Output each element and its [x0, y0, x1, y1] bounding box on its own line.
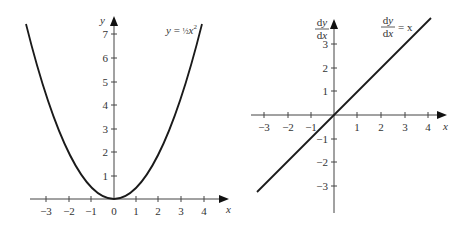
- left-x-tick-labels: −3 −2 −1 0 1 2 3 4: [40, 205, 207, 217]
- right-y-axis-arrow-icon: [330, 19, 338, 29]
- eq-numerator: dy: [383, 14, 394, 26]
- figure-canvas: −3 −2 −1 0 1 2 3 4 x 1 2 3 4 5 6 7: [0, 0, 470, 230]
- tick-label: −1: [316, 133, 328, 145]
- right-x-axis-label: x: [442, 120, 448, 132]
- left-x-axis-arrow-icon: [219, 195, 229, 203]
- left-chart: −3 −2 −1 0 1 2 3 4 x 1 2 3 4 5 6 7: [26, 14, 231, 217]
- tick-label: 2: [103, 146, 109, 158]
- right-chart: −3 −2 −1 1 2 3 4 x 1 2 3 −1 −2 −3: [251, 14, 448, 213]
- tick-label: 6: [103, 52, 109, 64]
- tick-label: 1: [354, 121, 360, 133]
- eq-rhs: = x: [398, 21, 413, 33]
- tick-label: −3: [316, 180, 328, 192]
- tick-label: 7: [103, 28, 109, 40]
- tick-label: 3: [103, 123, 109, 135]
- tick-label: 4: [425, 121, 431, 133]
- parabola-equation-label: y = ½x2: [165, 23, 198, 36]
- eq-denominator: dx: [383, 27, 394, 39]
- tick-label: 1: [323, 85, 329, 97]
- tick-label: −2: [282, 121, 294, 133]
- tick-label: −3: [258, 121, 270, 133]
- right-y-axis-label: dy dx: [315, 16, 329, 41]
- tick-label: −2: [63, 205, 75, 217]
- tick-label: 3: [178, 205, 184, 217]
- left-x-axis-label: x: [225, 203, 231, 215]
- right-x-axis-arrow-icon: [437, 111, 447, 119]
- tick-label: 0: [111, 205, 117, 217]
- tick-label: 4: [103, 99, 109, 111]
- tick-label: 3: [402, 121, 408, 133]
- left-y-axis-label: y: [99, 14, 105, 26]
- derivative-line: [257, 18, 431, 192]
- tick-label: 5: [103, 76, 109, 88]
- y-label-denominator: dx: [317, 29, 328, 41]
- tick-label: 1: [133, 205, 139, 217]
- tick-label: 2: [378, 121, 384, 133]
- left-y-axis-arrow-icon: [110, 16, 118, 26]
- tick-label: 4: [201, 205, 207, 217]
- tick-label: 2: [155, 205, 161, 217]
- y-label-numerator: dy: [317, 16, 328, 28]
- tick-label: −3: [40, 205, 52, 217]
- tick-label: −1: [85, 205, 97, 217]
- tick-label: 1: [103, 170, 109, 182]
- tick-label: −2: [316, 156, 328, 168]
- right-x-tick-labels: −3 −2 −1 1 2 3 4: [258, 121, 431, 133]
- tick-label: 2: [323, 62, 329, 74]
- derivative-equation-label: dy dx = x: [381, 14, 413, 39]
- tick-label: −1: [305, 121, 317, 133]
- left-y-tick-labels: 1 2 3 4 5 6 7: [103, 28, 109, 182]
